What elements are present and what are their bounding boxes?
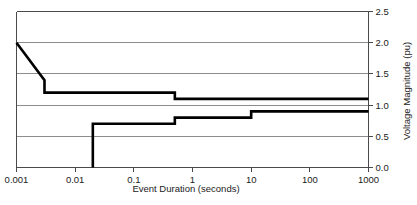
y-axis-title: Voltage Magnitude (pu) — [401, 42, 412, 140]
x-tick-label: 100 — [302, 174, 318, 185]
x-tick-label: 0.01 — [66, 174, 85, 185]
y-tick-label: 1.5 — [376, 68, 389, 79]
chart-background — [0, 0, 417, 205]
y-tick-label: 2.5 — [376, 6, 389, 17]
y-tick-label: 2.0 — [376, 37, 389, 48]
y-tick-label: 0.5 — [376, 131, 389, 142]
voltage-tolerance-chart: 0.0010.010.11101001000 0.00.51.01.52.02.… — [0, 0, 417, 205]
x-tick-label: 1000 — [358, 174, 379, 185]
x-axis-title: Event Duration (seconds) — [132, 183, 239, 194]
y-tick-label: 0.0 — [376, 162, 389, 173]
x-tick-label: 0.001 — [5, 174, 29, 185]
y-tick-label: 1.0 — [376, 100, 389, 111]
x-tick-label: 10 — [246, 174, 257, 185]
chart-svg: 0.0010.010.11101001000 0.00.51.01.52.02.… — [0, 0, 417, 205]
